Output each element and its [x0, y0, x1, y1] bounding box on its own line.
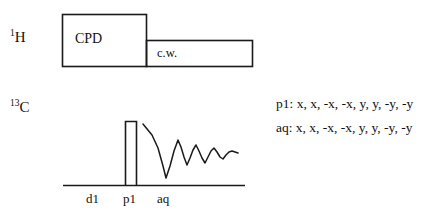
cpd-block-label: CPD [75, 32, 102, 46]
channel-label-proton: 1H [10, 30, 26, 45]
carbon-pulse-p1 [126, 122, 137, 186]
channel-label-carbon: 13C [10, 100, 30, 115]
cw-block-label: c.w. [157, 47, 177, 60]
axis-tick-label-d1: d1 [86, 192, 99, 205]
axis-tick-label-p1: p1 [123, 192, 136, 205]
phase-cycle-line-aq: aq: x, x, -x, -x, y, y, -y, -y [276, 121, 412, 135]
channel-label-proton-main: H [15, 29, 26, 45]
channel-label-carbon-main: C [20, 99, 30, 115]
carbon-fid-trace [143, 124, 238, 178]
pulse-sequence-diagram: 1H 13C CPD c.w. d1 p1 aq p1: x, x, -x, -… [0, 0, 446, 222]
pulse-sequence-canvas [0, 0, 446, 222]
phase-cycle-line-p1: p1: x, x, -x, -x, y, y, -y, -y [276, 97, 413, 111]
channel-label-carbon-superscript: 13 [10, 98, 20, 108]
axis-tick-label-aq: aq [157, 192, 169, 205]
